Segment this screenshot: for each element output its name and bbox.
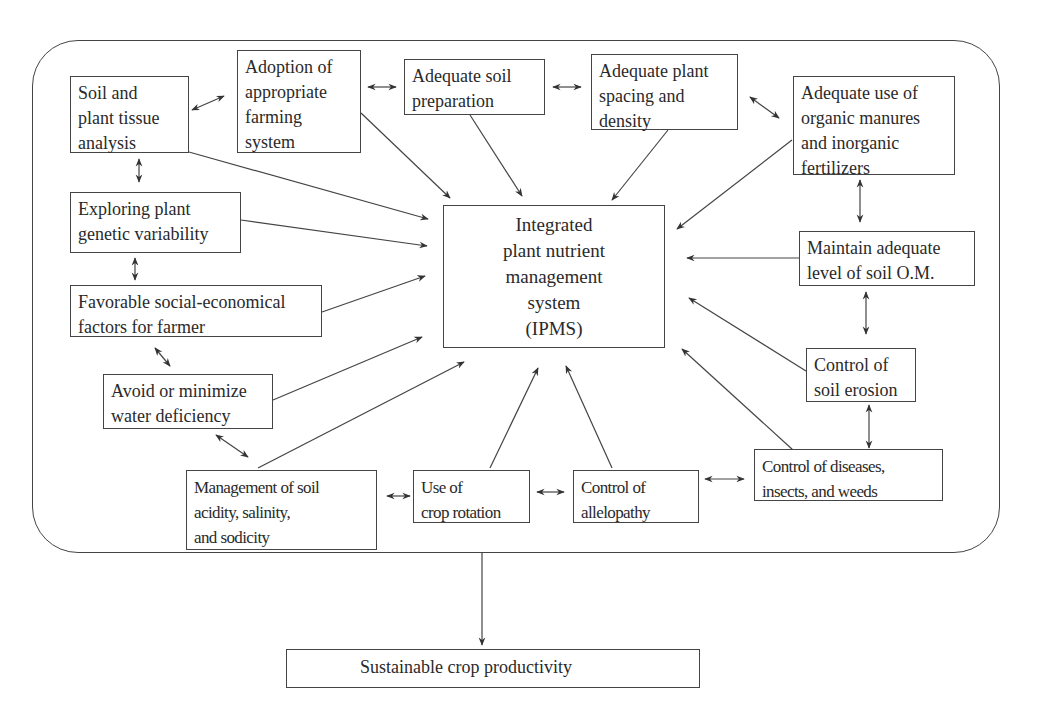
node-socio-economic-factors: Favorable social-economical factors for …	[70, 285, 322, 337]
node-sustainable-crop-productivity: Sustainable crop productivity	[286, 649, 700, 688]
node-water-deficiency: Avoid or minimize water deficiency	[103, 374, 273, 429]
node-soil-erosion: Control of soil erosion	[806, 348, 916, 402]
edge-manures-to-ipms	[677, 140, 792, 229]
edge-socio-to-ipms	[322, 276, 425, 312]
node-soil-acidity-management: Management of soil acidity, salinity, an…	[186, 470, 377, 550]
link-soil-tissue-farming	[192, 96, 224, 110]
link-spacing-manures	[750, 97, 779, 118]
node-farming-system: Adoption of appropriate farming system	[237, 50, 361, 153]
node-pest-control: Control of diseases, insects, and weeds	[754, 449, 943, 501]
edge-pests-to-ipms	[682, 349, 793, 450]
node-soil-tissue-analysis: Soil and plant tissue analysis	[70, 76, 189, 153]
link-socio-water	[155, 348, 170, 366]
edge-farming-to-ipms	[361, 113, 450, 198]
edge-soil-prep-to-ipms	[470, 115, 522, 196]
node-crop-rotation: Use of crop rotation	[413, 470, 530, 523]
node-plant-spacing: Adequate plant spacing and density	[591, 54, 738, 130]
edge-allelopathy-to-ipms	[566, 366, 612, 468]
edge-erosion-to-ipms	[689, 298, 806, 371]
node-soil-organic-matter: Maintain adequate level of soil O.M.	[799, 231, 975, 286]
edge-water-to-ipms	[273, 337, 422, 400]
link-water-acidity	[216, 435, 248, 457]
edge-spacing-to-ipms	[612, 130, 668, 200]
edge-genetic-to-ipms	[241, 220, 427, 246]
node-organic-manures: Adequate use of organic manures and inor…	[793, 76, 955, 175]
node-allelopathy: Control of allelopathy	[573, 470, 699, 523]
edge-rotation-to-ipms	[490, 368, 538, 468]
node-genetic-variability: Exploring plant genetic variability	[70, 192, 241, 253]
edge-acidity-to-ipms	[258, 362, 464, 468]
node-ipms-center: Integrated plant nutrient management sys…	[443, 205, 665, 348]
node-soil-preparation: Adequate soil preparation	[404, 59, 545, 115]
